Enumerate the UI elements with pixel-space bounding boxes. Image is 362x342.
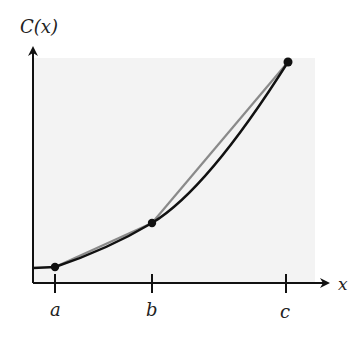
point-a: [51, 263, 59, 271]
point-c: [284, 58, 293, 67]
y-axis-label: C(x): [20, 16, 58, 37]
x-axis-label: x: [338, 274, 348, 294]
tick-label-a: a: [50, 299, 61, 320]
point-b: [148, 219, 156, 227]
background-panel: [33, 58, 315, 283]
tick-label-b: b: [146, 299, 158, 320]
tick-label-c: c: [280, 301, 290, 322]
cost-function-diagram: C(x) x a b c: [0, 0, 362, 342]
